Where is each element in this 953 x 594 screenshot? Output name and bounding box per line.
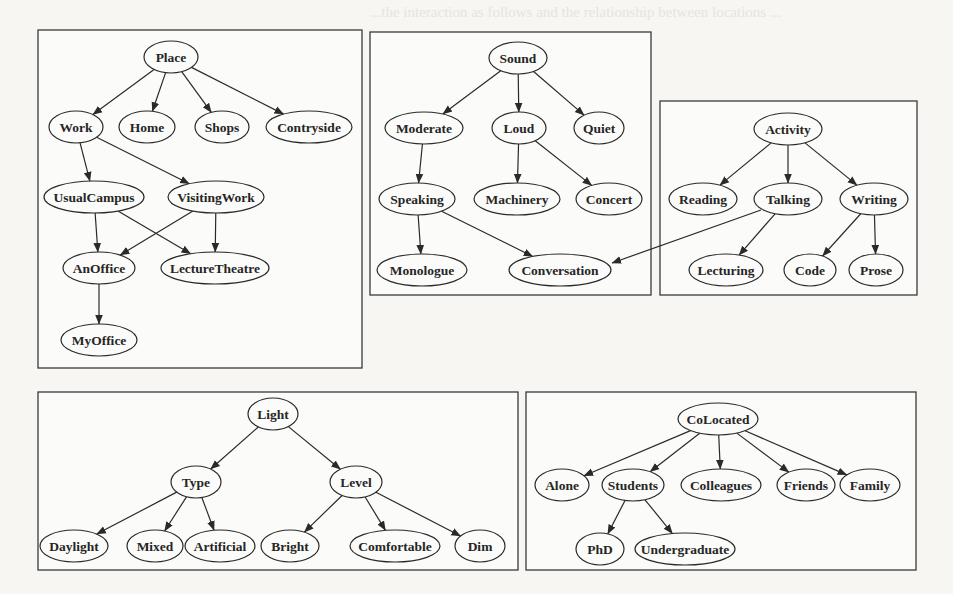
- node-label: LectureTheatre: [170, 261, 260, 276]
- node-light: Light: [248, 398, 298, 430]
- node-label: MyOffice: [72, 333, 127, 348]
- node-label: Colleagues: [690, 478, 752, 493]
- node-lecturing: Lecturing: [689, 254, 763, 286]
- node-label: VisitingWork: [177, 190, 255, 205]
- node-machinery: Machinery: [474, 183, 560, 215]
- node-label: Concert: [586, 192, 633, 207]
- node-family: Family: [840, 469, 900, 501]
- node-code: Code: [784, 254, 836, 286]
- node-label: Code: [795, 263, 825, 278]
- node-bright: Bright: [261, 530, 319, 562]
- node-label: Type: [182, 475, 210, 490]
- edge-visitingwork-to-lecturetheatre: [215, 213, 216, 252]
- node-colleagues: Colleagues: [681, 469, 761, 501]
- node-myoffice: MyOffice: [61, 324, 137, 356]
- node-label: Students: [608, 478, 658, 493]
- node-label: Bright: [271, 539, 309, 554]
- node-visitingwork: VisitingWork: [168, 181, 264, 213]
- node-students: Students: [602, 469, 664, 501]
- node-label: AnOffice: [73, 261, 125, 276]
- node-alone: Alone: [535, 469, 589, 501]
- node-talking: Talking: [754, 183, 822, 215]
- node-monologue: Monologue: [377, 254, 467, 286]
- node-label: Prose: [860, 263, 892, 278]
- node-label: Machinery: [486, 192, 549, 207]
- node-prose: Prose: [849, 254, 903, 286]
- node-label: UsualCampus: [53, 190, 134, 205]
- concept-hierarchy-figure: PlaceWorkHomeShopsContrysideUsualCampusV…: [0, 0, 953, 594]
- node-label: Lecturing: [698, 263, 755, 278]
- node-sound: Sound: [489, 42, 547, 74]
- node-type: Type: [171, 466, 221, 498]
- node-work: Work: [49, 111, 103, 143]
- node-label: Loud: [504, 121, 535, 136]
- node-writing: Writing: [840, 183, 908, 215]
- node-place: Place: [144, 41, 198, 73]
- node-label: Alone: [545, 478, 579, 493]
- node-label: PhD: [587, 542, 613, 557]
- node-label: Work: [59, 120, 92, 135]
- node-contryside: Contryside: [266, 111, 352, 143]
- node-label: Activity: [765, 122, 811, 137]
- node-label: Moderate: [396, 121, 452, 136]
- node-colocated: CoLocated: [678, 403, 758, 435]
- node-label: Place: [156, 50, 187, 65]
- node-label: Speaking: [390, 192, 444, 207]
- node-label: Comfortable: [358, 539, 431, 554]
- node-label: Artificial: [194, 539, 247, 554]
- node-home: Home: [119, 111, 175, 143]
- node-label: Friends: [784, 478, 828, 493]
- node-conversation: Conversation: [509, 254, 611, 286]
- node-label: Shops: [205, 120, 240, 135]
- node-concert: Concert: [576, 183, 642, 215]
- node-daylight: Daylight: [40, 530, 108, 562]
- node-lecturetheatre: LectureTheatre: [161, 252, 269, 284]
- node-label: Talking: [766, 192, 810, 207]
- node-comfortable: Comfortable: [350, 530, 440, 562]
- node-activity: Activity: [754, 113, 822, 145]
- node-level: Level: [330, 466, 382, 498]
- node-artificial: Artificial: [185, 530, 255, 562]
- node-label: Mixed: [137, 539, 174, 554]
- node-friends: Friends: [777, 469, 835, 501]
- node-quiet: Quiet: [574, 112, 624, 144]
- node-label: Conversation: [521, 263, 599, 278]
- node-mixed: Mixed: [127, 530, 183, 562]
- node-label: Monologue: [390, 263, 455, 278]
- node-speaking: Speaking: [379, 183, 455, 215]
- node-label: Dim: [468, 539, 494, 554]
- node-undergraduate: Undergraduate: [635, 533, 735, 565]
- node-label: Writing: [851, 192, 897, 207]
- node-label: Quiet: [583, 121, 616, 136]
- node-loud: Loud: [492, 112, 546, 144]
- node-label: Home: [130, 120, 165, 135]
- node-usualcampus: UsualCampus: [44, 181, 144, 213]
- node-anoffice: AnOffice: [63, 252, 135, 284]
- node-label: Undergraduate: [641, 542, 730, 557]
- node-label: CoLocated: [687, 412, 750, 427]
- node-label: Sound: [500, 51, 537, 66]
- node-label: Level: [340, 475, 372, 490]
- node-dim: Dim: [455, 530, 505, 562]
- node-label: Family: [850, 478, 891, 493]
- node-label: Light: [257, 407, 289, 422]
- node-label: Daylight: [49, 539, 99, 554]
- node-moderate: Moderate: [385, 112, 463, 144]
- node-shops: Shops: [195, 111, 249, 143]
- node-label: Reading: [679, 192, 727, 207]
- edge-sound-to-loud: [518, 74, 519, 112]
- node-label: Contryside: [277, 120, 341, 135]
- node-reading: Reading: [669, 183, 737, 215]
- node-phd: PhD: [576, 533, 624, 565]
